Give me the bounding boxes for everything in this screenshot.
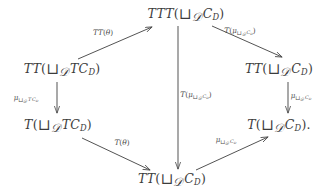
coproduct-icon: ⊔: [38, 116, 51, 134]
coproduct-icon: ⊔: [46, 60, 59, 78]
coproduct-icon: ⊔: [295, 94, 300, 101]
coproduct-icon: ⊔: [237, 29, 242, 36]
coproduct-icon: ⊔: [220, 138, 225, 145]
coproduct-icon: ⊔: [18, 96, 23, 103]
coproduct-icon: ⊔: [267, 60, 280, 78]
node-top-label: T: [148, 6, 157, 21]
arrow-layer: [0, 0, 333, 196]
commutative-diagram: TTT(⊔𝒟CD) TT(⊔𝒟TCD) TT(⊔𝒟CD) T(⊔𝒟TCD) T(…: [0, 0, 333, 196]
node-bottom: TT(⊔𝒟CD): [138, 171, 206, 189]
node-left-upper: TT(⊔𝒟TCD): [24, 61, 101, 79]
coproduct-icon: ⊔: [193, 93, 198, 100]
period: .: [307, 117, 311, 132]
node-right-lower: T(⊔𝒟CD).: [247, 117, 310, 135]
arrow-label-bottom-to-right-lower: μ⊔𝒟CD: [216, 136, 237, 146]
arrow-label-left-upper-to-left-lower: μ⊔𝒟TCD: [14, 94, 38, 104]
coproduct-icon: ⊔: [261, 116, 274, 134]
arrow-left-upper-to-top: [78, 27, 152, 59]
node-top: TTT(⊔𝒟CD): [148, 6, 225, 24]
arrow-label-top-to-right-upper: T(μ⊔𝒟CD): [224, 27, 255, 37]
arrow-label-top-to-bottom: T(μ⊔𝒟CD): [180, 91, 211, 101]
arrow-label-left-lower-to-bottom: T(θ): [114, 139, 129, 146]
arrow-label-right-upper-to-right-lower: μ⊔𝒟CD: [291, 92, 312, 102]
node-left-lower: T(⊔𝒟TCD): [24, 117, 92, 135]
coproduct-icon: ⊔: [160, 170, 173, 188]
arrow-label-left-upper-to-top: TT(θ): [93, 29, 113, 36]
node-right-upper: TT(⊔𝒟CD): [245, 61, 313, 79]
coproduct-icon: ⊔: [179, 5, 192, 23]
